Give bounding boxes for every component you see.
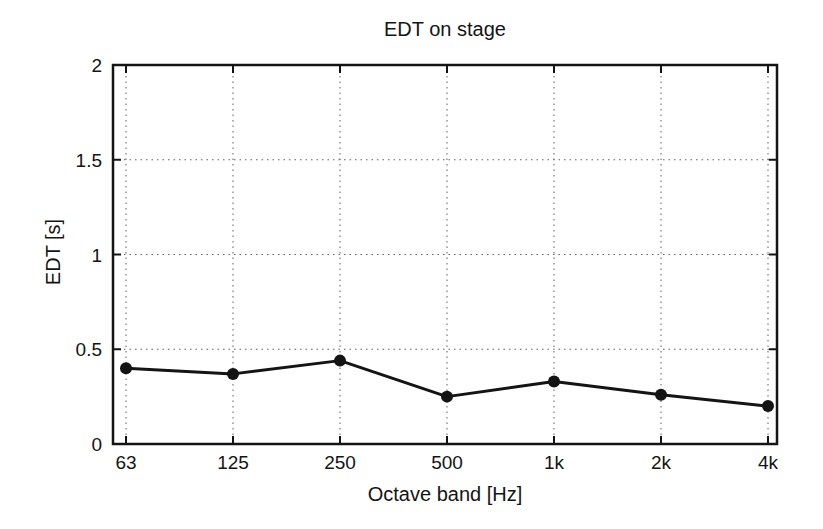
data-point: [655, 389, 667, 401]
x-tick-label: 4k: [758, 452, 779, 473]
data-point: [548, 375, 560, 387]
x-tick-label: 250: [324, 452, 356, 473]
x-tick-label: 1k: [544, 452, 565, 473]
x-axis-label: Octave band [Hz]: [113, 483, 777, 506]
x-tick-label: 63: [115, 452, 136, 473]
figure: EDT on stage EDT [s] 631252505001k2k4k00…: [0, 0, 823, 529]
x-tick-label: 2k: [651, 452, 672, 473]
data-point: [120, 362, 132, 374]
y-tick-label: 0: [91, 434, 102, 455]
data-point: [227, 368, 239, 380]
plot-area: 631252505001k2k4k00.511.52: [0, 0, 823, 529]
y-tick-label: 1: [91, 245, 102, 266]
x-tick-label: 500: [431, 452, 463, 473]
x-tick-label: 125: [217, 452, 249, 473]
y-tick-label: 0.5: [76, 339, 102, 360]
data-point: [334, 355, 346, 367]
data-point: [762, 400, 774, 412]
y-tick-label: 1.5: [76, 150, 102, 171]
data-point: [441, 391, 453, 403]
y-tick-label: 2: [91, 55, 102, 76]
